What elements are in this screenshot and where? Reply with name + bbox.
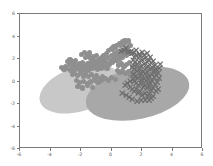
- y-tick-label: 6: [3, 11, 15, 16]
- x-tick-mark: [141, 148, 142, 151]
- x-tick-mark: [202, 148, 203, 151]
- x-tick-label: -6: [17, 152, 22, 157]
- y-tick-mark: [17, 148, 20, 149]
- x-tick-mark: [80, 148, 81, 151]
- y-tick-label: 2: [3, 56, 15, 61]
- data-layer: [20, 14, 201, 147]
- x-tick-label: 4: [170, 152, 173, 157]
- x-tick-label: 6: [201, 152, 204, 157]
- data-point-cluster-b: [146, 88, 152, 94]
- data-point-cluster-b: [134, 90, 140, 96]
- x-tick-label: -4: [47, 152, 52, 157]
- x-tick-label: 2: [140, 152, 143, 157]
- y-tick-label: -2: [3, 101, 15, 106]
- y-tick-label: 4: [3, 33, 15, 38]
- data-point-cluster-b: [130, 68, 136, 74]
- x-tick-mark: [19, 148, 20, 151]
- data-point-cluster-b: [147, 45, 153, 51]
- x-tick-mark: [111, 148, 112, 151]
- data-point-cluster-a: [73, 58, 78, 63]
- data-point-cluster-a: [113, 77, 118, 82]
- y-tick-label: -6: [3, 146, 15, 151]
- y-tick-label: -4: [3, 123, 15, 128]
- y-tick-mark: [17, 13, 20, 14]
- data-point-cluster-b: [125, 40, 131, 46]
- x-tick-label: -2: [78, 152, 83, 157]
- y-tick-mark: [17, 36, 20, 37]
- x-tick-label: 0: [109, 152, 112, 157]
- data-point-cluster-a: [90, 85, 95, 90]
- x-tick-mark: [50, 148, 51, 151]
- data-point-cluster-b: [156, 66, 162, 72]
- y-tick-mark: [17, 81, 20, 82]
- data-point-cluster-b: [157, 52, 163, 58]
- scatter-figure: -6-4-20246-6-4-20246: [0, 0, 213, 166]
- y-tick-mark: [17, 126, 20, 127]
- y-tick-mark: [17, 103, 20, 104]
- plot-area: [19, 13, 202, 148]
- y-tick-label: 0: [3, 78, 15, 83]
- data-point-cluster-a: [87, 50, 92, 55]
- x-tick-mark: [172, 148, 173, 151]
- y-tick-mark: [17, 58, 20, 59]
